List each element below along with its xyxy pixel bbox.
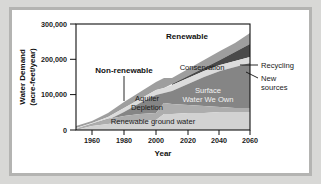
label-renewable: Renewable [166,32,208,41]
x-axis-ticks [92,130,250,135]
y-tick-label-0: 0 [63,126,67,135]
y-axis-title-line1: Water Demand [18,49,27,105]
y-tick-label-100000: 100,000 [41,90,67,99]
figure-container: 300,000 200,000 100,000 0 1960 1980 2000… [0,0,321,184]
label-surface-water-line1: Surface [195,86,221,95]
x-tick-label-1980: 1980 [116,136,132,145]
label-conservation: Conservation [180,63,225,72]
x-tick-label-2060: 2060 [242,136,258,145]
x-axis-title: Year [155,149,172,158]
label-aquifer-depletion-line2: Depletion [131,103,163,112]
y-axis-ticks [70,24,76,130]
water-demand-area-chart: 300,000 200,000 100,000 0 1960 1980 2000… [0,0,321,184]
x-tick-label-2020: 2020 [180,136,196,145]
x-tick-label-2000: 2000 [148,136,164,145]
label-surface-water-line2: Water We Own [182,95,233,104]
x-tick-label-1960: 1960 [84,136,100,145]
label-non-renewable: Non-renewable [95,66,153,75]
label-renewable-ground-water: Renewable ground water [111,117,196,126]
label-recycling: Recycling [261,61,294,70]
y-tick-label-200000: 200,000 [41,55,67,64]
y-tick-label-300000: 300,000 [41,20,67,29]
y-axis-title-line2: (acre-feet/year) [28,48,37,106]
label-aquifer-depletion-line1: Aquifer [135,94,160,103]
label-new-sources-line1: New [261,74,277,83]
label-new-sources-line2: sources [261,83,288,92]
x-tick-label-2040: 2040 [211,136,227,145]
area-bands-group [76,33,250,130]
